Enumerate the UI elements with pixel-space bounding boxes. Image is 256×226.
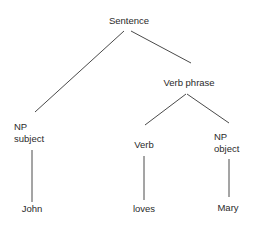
- node-sentence: Sentence: [109, 15, 149, 27]
- node-verb: Verb: [134, 139, 154, 151]
- edge-verb-phrase-np-object: [187, 94, 229, 123]
- np-object-line2: object: [214, 143, 239, 155]
- edge-verb-phrase-verb: [145, 94, 186, 125]
- np-subject-line1: NP: [14, 121, 44, 133]
- edge-sentence-verb-phrase: [131, 31, 191, 63]
- leaf-loves: loves: [133, 203, 155, 215]
- leaf-mary: Mary: [217, 202, 238, 214]
- np-subject-line2: subject: [14, 133, 44, 145]
- node-np-object: NP object: [214, 131, 239, 155]
- tree-edges: [0, 0, 256, 226]
- node-verb-phrase: Verb phrase: [163, 77, 214, 89]
- node-np-subject: NP subject: [14, 121, 44, 145]
- leaf-john: John: [22, 203, 43, 215]
- np-object-line1: NP: [214, 131, 239, 143]
- edge-sentence-np-subject: [35, 31, 124, 112]
